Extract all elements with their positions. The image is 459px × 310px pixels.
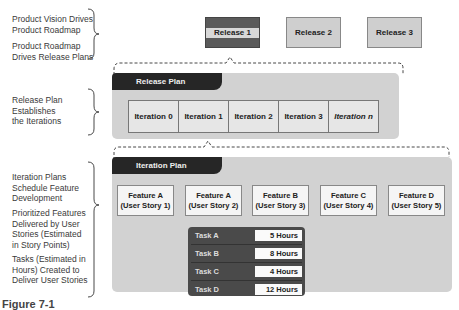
label-line: Product Roadmap: [12, 25, 93, 36]
task-row[interactable]: Task D 12 Hours: [191, 281, 302, 298]
iteration-label: Iteration n: [334, 112, 373, 121]
feature-story: (User Story 4): [321, 201, 376, 211]
feature-b-story-3[interactable]: Feature B (User Story 3): [252, 185, 309, 216]
iteration-label: Iteration 1: [184, 112, 222, 121]
task-name: Task A: [191, 231, 219, 240]
task-hours: 12 Hours: [255, 284, 302, 295]
label-line: in Story Points): [12, 240, 86, 251]
feature-a-story-1[interactable]: Feature A (User Story 1): [117, 185, 174, 216]
label-tasks: Tasks (Estimated in Hours) Created to De…: [12, 254, 88, 286]
feature-name: Feature A: [118, 191, 173, 201]
feature-name: Feature D: [389, 191, 444, 201]
iteration-plan-tab: Iteration Plan: [112, 157, 222, 174]
release-plan-title: Release Plan: [136, 77, 185, 86]
iteration-1[interactable]: Iteration 1: [179, 101, 229, 132]
label-roadmap: Product Roadmap Drives Release Plans: [12, 41, 93, 62]
release-label: Release 3: [376, 28, 413, 37]
label-line: Product Vision Drives: [12, 14, 93, 25]
release-1-box[interactable]: Release 1: [205, 17, 260, 48]
label-features: Prioritized Features Delivered by User S…: [12, 208, 86, 250]
task-hours: 4 Hours: [255, 266, 302, 277]
feature-name: Feature C: [321, 191, 376, 201]
feature-name: Feature B: [253, 191, 308, 201]
iteration-label: Iteration 3: [284, 112, 322, 121]
release-3-box[interactable]: Release 3: [367, 17, 422, 48]
iteration-3[interactable]: Iteration 3: [279, 101, 329, 132]
iteration-label: Iteration 0: [134, 112, 172, 121]
release-label: Release 2: [295, 28, 332, 37]
feature-story: (User Story 5): [389, 201, 444, 211]
label-line: Product Roadmap: [12, 41, 93, 52]
iteration-row: Iteration 0 Iteration 1 Iteration 2 Iter…: [128, 100, 379, 133]
label-line: Drives Release Plans: [12, 52, 93, 63]
task-row[interactable]: Task A 5 Hours: [191, 227, 302, 245]
label-line: Prioritized Features: [12, 208, 86, 219]
release-label: Release 1: [206, 28, 259, 38]
feature-c-story-4[interactable]: Feature C (User Story 4): [320, 185, 377, 216]
label-vision: Product Vision Drives Product Roadmap: [12, 14, 93, 35]
task-name: Task B: [191, 249, 219, 258]
iteration-0[interactable]: Iteration 0: [129, 101, 179, 132]
release-2-box[interactable]: Release 2: [286, 17, 341, 48]
task-hours: 5 Hours: [255, 230, 302, 241]
label-line: Hours) Created to: [12, 265, 88, 276]
label-line: Release Plan: [12, 95, 63, 106]
task-name: Task C: [191, 267, 219, 276]
figure-caption: Figure 7-1: [2, 298, 55, 310]
feature-story: (User Story 3): [253, 201, 308, 211]
label-release-plan: Release Plan Establishes the Iterations: [12, 95, 63, 127]
label-line: Schedule Feature: [12, 183, 79, 194]
iteration-label: Iteration 2: [234, 112, 272, 121]
label-iteration-plans: Iteration Plans Schedule Feature Develop…: [12, 172, 79, 204]
feature-story: (User Story 1): [118, 201, 173, 211]
task-row[interactable]: Task B 8 Hours: [191, 245, 302, 263]
iteration-plan-title: Iteration Plan: [136, 161, 187, 170]
task-hours: 8 Hours: [255, 248, 302, 259]
label-line: the Iterations: [12, 116, 63, 127]
task-name: Task D: [191, 285, 219, 294]
feature-d-story-5[interactable]: Feature D (User Story 5): [388, 185, 445, 216]
label-line: Tasks (Estimated in: [12, 254, 88, 265]
label-line: Delivered by User: [12, 219, 86, 230]
task-row[interactable]: Task C 4 Hours: [191, 263, 302, 281]
label-line: Iteration Plans: [12, 172, 79, 183]
label-line: Deliver User Stories: [12, 275, 88, 286]
label-line: Stories (Estimated: [12, 229, 86, 240]
feature-story: (User Story 2): [186, 201, 241, 211]
feature-a-story-2[interactable]: Feature A (User Story 2): [185, 185, 242, 216]
iteration-2[interactable]: Iteration 2: [229, 101, 279, 132]
label-line: Development: [12, 193, 79, 204]
task-list: Task A 5 Hours Task B 8 Hours Task C 4 H…: [188, 227, 305, 296]
feature-name: Feature A: [186, 191, 241, 201]
iteration-n[interactable]: Iteration n: [329, 101, 378, 132]
label-line: Establishes: [12, 106, 63, 117]
release-plan-tab: Release Plan: [112, 73, 222, 90]
